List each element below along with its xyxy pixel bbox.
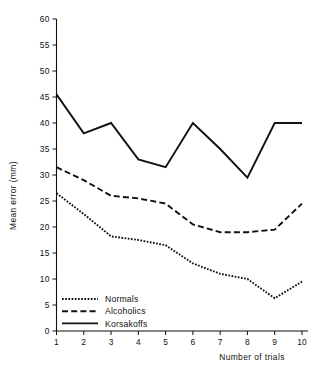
y-tick-label: 35 [40, 144, 50, 154]
x-tick-label: 6 [190, 337, 195, 347]
y-tick-label: 50 [40, 66, 50, 76]
chart-figure: 051015202530354045505560 12345678910 Mea… [0, 0, 319, 380]
y-axis-tick-labels: 051015202530354045505560 [40, 14, 50, 336]
y-axis-ticks [53, 19, 57, 331]
y-tick-label: 15 [40, 248, 50, 258]
legend-label-normals: Normals [105, 294, 138, 304]
x-axis-ticks [57, 331, 303, 335]
y-axis-title: Mean error (mm) [8, 161, 18, 230]
x-tick-label: 1 [54, 337, 59, 347]
y-tick-label: 10 [40, 274, 50, 284]
y-tick-label: 0 [45, 326, 50, 336]
y-axis: 051015202530354045505560 [40, 14, 57, 336]
y-tick-label: 45 [40, 92, 50, 102]
data-series-group [57, 94, 303, 298]
y-tick-label: 55 [40, 40, 50, 50]
series-line-alcoholics [57, 167, 303, 232]
y-tick-label: 60 [40, 14, 50, 24]
x-tick-label: 2 [81, 337, 86, 347]
line-chart: 051015202530354045505560 12345678910 Mea… [0, 0, 319, 380]
legend-label-korsakoffs: Korsakoffs [105, 319, 147, 329]
x-tick-label: 10 [297, 337, 307, 347]
legend-label-alcoholics: Alcoholics [105, 306, 146, 316]
series-line-normals [57, 193, 303, 298]
y-tick-label: 25 [40, 196, 50, 206]
y-tick-label: 30 [40, 170, 50, 180]
x-tick-label: 7 [218, 337, 223, 347]
y-tick-label: 20 [40, 222, 50, 232]
x-axis-tick-labels: 12345678910 [54, 337, 307, 347]
y-tick-label: 40 [40, 118, 50, 128]
x-axis: 12345678910 [54, 331, 308, 347]
y-tick-label: 5 [45, 300, 50, 310]
x-tick-label: 9 [272, 337, 277, 347]
x-axis-title: Number of trials [219, 352, 285, 362]
x-tick-label: 4 [136, 337, 141, 347]
series-line-korsakoffs [57, 94, 303, 177]
x-tick-label: 5 [163, 337, 168, 347]
x-tick-label: 3 [109, 337, 114, 347]
x-tick-label: 8 [245, 337, 250, 347]
chart-legend: NormalsAlcoholicsKorsakoffs [62, 294, 147, 328]
